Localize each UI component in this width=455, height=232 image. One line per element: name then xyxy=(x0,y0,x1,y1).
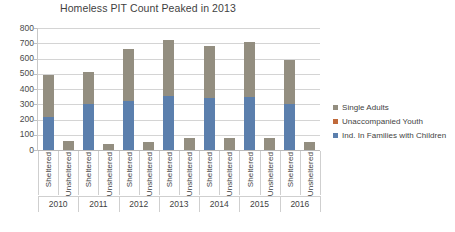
x-axis-year-label: 2011 xyxy=(78,198,118,210)
x-axis-tick xyxy=(199,151,200,195)
x-axis-tick xyxy=(260,151,261,195)
legend-item[interactable]: Ind. In Families with Children xyxy=(333,129,455,142)
x-axis-tick xyxy=(58,151,59,195)
x-axis-tick xyxy=(38,151,39,195)
y-tick-label-500: 500 xyxy=(0,69,34,78)
x-axis-year-label: 2013 xyxy=(159,198,199,210)
x-axis-category-area: ShelteredUnshelteredShelteredUnsheltered… xyxy=(38,151,320,232)
x-axis-tick xyxy=(280,151,281,195)
bar-segment[interactable] xyxy=(163,40,174,96)
bar-segment[interactable] xyxy=(83,104,94,150)
bar-segment[interactable] xyxy=(264,138,275,150)
x-axis-tick xyxy=(239,151,240,195)
legend-swatch-icon xyxy=(333,119,338,124)
bar-segment[interactable] xyxy=(224,138,235,150)
y-axis-tick-labels: 0100200300400500600700800 xyxy=(0,28,34,150)
x-axis-tick xyxy=(300,151,301,195)
bar-segment[interactable] xyxy=(204,46,215,98)
chart-container: Homeless PIT Count Peaked in 2013 010020… xyxy=(0,0,455,232)
x-axis-year-label: 2010 xyxy=(38,198,78,210)
x-axis-year-label: 2012 xyxy=(119,198,159,210)
y-tick-label-800: 800 xyxy=(0,24,34,33)
bar-segment[interactable] xyxy=(43,75,54,118)
bar-series-group xyxy=(38,28,320,150)
bar-segment[interactable] xyxy=(63,141,74,150)
plot-area xyxy=(38,28,320,150)
legend-item[interactable]: Unaccompanied Youth xyxy=(333,115,455,128)
y-tick-label-200: 200 xyxy=(0,115,34,124)
legend-label: Unaccompanied Youth xyxy=(342,117,423,126)
legend-swatch-icon xyxy=(333,133,338,138)
bar-segment[interactable] xyxy=(284,104,295,150)
x-axis-tick xyxy=(139,151,140,195)
x-axis-tick xyxy=(98,151,99,195)
bar-segment[interactable] xyxy=(284,60,295,104)
x-axis-tick xyxy=(78,151,79,195)
x-axis-tick xyxy=(179,151,180,195)
bar-segment[interactable] xyxy=(83,72,94,104)
y-tick-label-700: 700 xyxy=(0,39,34,48)
x-axis-tick xyxy=(159,151,160,195)
bar-segment[interactable] xyxy=(304,142,315,150)
y-tick-label-0: 0 xyxy=(0,146,34,155)
bar-segment[interactable] xyxy=(184,138,195,150)
x-axis-year-label: 2014 xyxy=(199,198,239,210)
legend-item[interactable]: Single Adults xyxy=(333,101,455,114)
x-axis-category-label: Unsheltered xyxy=(305,152,347,196)
bar-segment[interactable] xyxy=(163,96,174,150)
legend-swatch-icon xyxy=(333,105,338,110)
bar-segment[interactable] xyxy=(244,42,255,97)
x-axis-tick xyxy=(320,151,321,195)
x-axis-tick xyxy=(219,151,220,195)
chart-title: Homeless PIT Count Peaked in 2013 xyxy=(60,2,360,14)
legend-label: Single Adults xyxy=(342,103,389,112)
y-tick-label-400: 400 xyxy=(0,85,34,94)
bar-segment[interactable] xyxy=(103,144,114,150)
bar-segment[interactable] xyxy=(244,97,255,150)
x-axis-year-label: 2016 xyxy=(280,198,320,210)
chart-legend: Single AdultsUnaccompanied YouthInd. In … xyxy=(333,101,455,143)
x-axis-tick xyxy=(119,151,120,195)
y-tick-label-100: 100 xyxy=(0,130,34,139)
x-axis-year-label: 2015 xyxy=(239,198,279,210)
legend-label: Ind. In Families with Children xyxy=(342,131,446,140)
bar-segment[interactable] xyxy=(204,98,215,150)
year-separator xyxy=(320,196,321,212)
bar-segment[interactable] xyxy=(143,142,154,150)
bar-segment[interactable] xyxy=(43,117,54,150)
y-tick-label-600: 600 xyxy=(0,54,34,63)
bar-segment[interactable] xyxy=(123,101,134,150)
bar-segment[interactable] xyxy=(123,49,134,101)
y-tick-label-300: 300 xyxy=(0,100,34,109)
